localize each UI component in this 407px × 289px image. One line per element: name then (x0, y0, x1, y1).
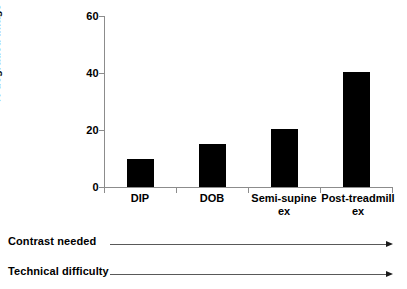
x-label-dip: DIP (104, 192, 176, 205)
bar-dob (199, 144, 226, 187)
right-arrow-icon (110, 240, 393, 249)
bar-post-treadmill-ex (343, 72, 370, 187)
arrow-head (386, 241, 393, 247)
y-tick-label-20: 20 (86, 124, 99, 136)
annotation-label-technical-difficulty: Technical difficulty (8, 262, 109, 280)
bar-dip (127, 159, 154, 188)
right-arrow-icon (110, 270, 393, 279)
arrow-shaft (110, 274, 387, 275)
annotation-contrast-needed: Contrast needed (0, 232, 407, 250)
y-tick-label-40: 40 (86, 67, 99, 79)
x-label-post-treadmill-ex: Post-treadmill ex (320, 192, 396, 218)
y-tick-60: 60 (99, 16, 104, 17)
bar-chart-figure: % degraded image quality 0 20 40 60 DIP … (0, 0, 407, 289)
y-tick-40: 40 (99, 73, 104, 74)
y-tick-20: 20 (99, 130, 104, 131)
x-label-dob: DOB (176, 192, 248, 205)
y-axis-title: % degraded image quality (0, 0, 6, 118)
arrow-head (386, 271, 393, 277)
plot-area: 0 20 40 60 (104, 16, 393, 187)
arrow-shaft (110, 244, 387, 245)
y-tick-label-60: 60 (86, 10, 99, 22)
annotation-label-contrast-needed: Contrast needed (8, 232, 96, 250)
y-tick-label-0: 0 (92, 181, 98, 193)
bar-semi-supine-ex (271, 129, 298, 187)
x-label-semi-supine-ex: Semi-supine ex (248, 192, 320, 218)
annotation-technical-difficulty: Technical difficulty (0, 262, 407, 280)
